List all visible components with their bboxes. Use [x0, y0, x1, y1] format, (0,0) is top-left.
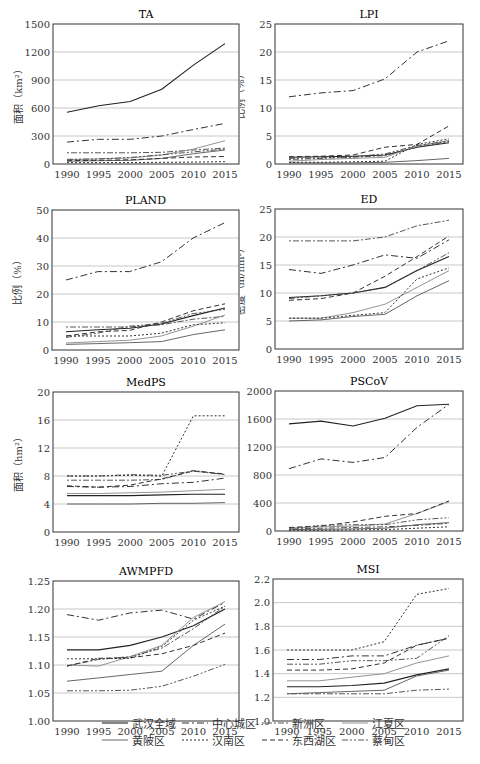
x-tick-label: 2000: [340, 354, 365, 365]
y-tick-label: 1.00: [28, 716, 50, 727]
y-tick-label: 5: [266, 316, 272, 327]
legend-label: 中心城区: [212, 715, 256, 731]
y-tick-label: 40: [36, 233, 49, 244]
y-tick-label: 300: [31, 131, 50, 142]
legend-item: 汉南区: [180, 732, 260, 748]
series-line: [67, 602, 225, 620]
x-tick-label: 2010: [404, 354, 429, 365]
series-line: [66, 223, 225, 280]
line-style-icon: [340, 737, 370, 743]
y-tick-label: 600: [31, 103, 50, 114]
y-tick-label: 1.2: [254, 692, 270, 703]
y-axis-label: 面积（km²）: [13, 64, 24, 124]
chart-title: PSCoV: [350, 376, 389, 388]
y-tick-label: 25: [259, 19, 272, 30]
chart-title: ED: [361, 193, 378, 206]
x-tick-label: 1990: [53, 355, 78, 366]
series-line: [287, 638, 449, 659]
line-chart: MedPS048121620199019952000200520102015面积…: [0, 376, 240, 566]
series-line: [289, 271, 449, 319]
chart-title: LPI: [359, 8, 378, 21]
x-tick-label: 2010: [181, 169, 206, 180]
series-line: [289, 220, 449, 241]
chart-title: PLAND: [125, 194, 166, 207]
y-tick-label: 15: [259, 75, 272, 86]
y-tick-label: 25: [259, 204, 272, 215]
x-tick-label: 2005: [149, 355, 174, 366]
x-tick-label: 2015: [436, 354, 461, 365]
legend-label: 新洲区: [292, 715, 325, 731]
x-tick-label: 2000: [117, 537, 142, 548]
chart-ta: TA03006009001200150019901995200020052010…: [0, 0, 240, 190]
y-tick-label: 1.8: [254, 621, 270, 632]
legend-item: 江夏区: [340, 715, 420, 731]
chart-title: AWMPFD: [118, 565, 173, 578]
x-tick-label: 1990: [54, 169, 79, 180]
x-tick-label: 1995: [86, 169, 111, 180]
series-line: [67, 664, 225, 690]
legend-item: 中心城区: [180, 715, 260, 731]
y-tick-label: 1.10: [28, 660, 50, 671]
series-line: [66, 304, 225, 336]
x-tick-label: 2015: [436, 536, 461, 547]
series-line: [67, 162, 225, 163]
chart-medps: MedPS048121620199019952000200520102015面积…: [0, 376, 240, 566]
y-tick-label: 10: [259, 103, 272, 114]
y-tick-label: 1.6: [254, 645, 270, 656]
y-tick-label: 1500: [25, 19, 50, 30]
line-style-icon: [340, 720, 370, 726]
legend-label: 武汉全域: [132, 715, 176, 731]
y-tick-label: 0: [44, 527, 50, 538]
legend-item: 黄陂区: [100, 732, 180, 748]
x-tick-label: 1990: [54, 726, 79, 737]
legend-item: 武汉全域: [100, 715, 180, 731]
series-line: [67, 44, 225, 113]
series-line: [67, 149, 225, 159]
y-tick-label: 1.15: [28, 632, 50, 643]
x-tick-label: 1990: [276, 536, 301, 547]
x-tick-label: 2015: [212, 169, 237, 180]
x-tick-label: 2010: [404, 169, 429, 180]
legend-row: 黄陂区 汉南区 东西湖区 蔡甸区: [100, 731, 420, 748]
x-tick-label: 2010: [404, 536, 429, 547]
x-tick-label: 2000: [117, 169, 142, 180]
series-line: [287, 669, 449, 687]
x-tick-label: 2005: [149, 537, 174, 548]
series-line: [67, 123, 225, 142]
y-tick-label: 0: [44, 159, 50, 170]
x-tick-label: 1995: [86, 537, 111, 548]
y-tick-label: 0: [266, 344, 272, 355]
x-tick-label: 1995: [308, 536, 333, 547]
y-tick-label: 20: [259, 47, 272, 58]
y-tick-label: 0: [266, 159, 272, 170]
x-tick-label: 2015: [212, 355, 237, 366]
x-tick-label: 2015: [436, 169, 461, 180]
y-axis-label: 比例（%）: [240, 69, 246, 119]
y-axis-label: 密度（m/hm²）: [240, 243, 246, 316]
series-line: [66, 315, 225, 343]
series-line: [289, 281, 449, 321]
x-tick-label: 2015: [436, 726, 461, 737]
y-tick-label: 1200: [25, 47, 50, 58]
series-line: [287, 589, 449, 651]
x-tick-label: 2005: [372, 354, 397, 365]
series-line: [289, 404, 449, 426]
y-tick-label: 50: [36, 205, 49, 216]
series-line: [289, 257, 449, 298]
y-tick-label: 20: [36, 289, 49, 300]
x-tick-label: 1990: [54, 537, 79, 548]
legend-label: 江夏区: [372, 715, 405, 731]
y-tick-label: 2.2: [254, 574, 270, 585]
line-chart: LPI0510152025199019952000200520102015比例（…: [240, 0, 480, 190]
y-tick-label: 4: [44, 499, 50, 510]
chart-title: MedPS: [126, 376, 166, 389]
legend-item: 新洲区: [260, 715, 340, 731]
series-line: [289, 126, 449, 157]
line-style-icon: [260, 720, 290, 726]
series-line: [287, 656, 449, 681]
y-tick-label: 800: [253, 470, 272, 481]
y-tick-label: 30: [36, 261, 49, 272]
series-line: [67, 148, 225, 153]
y-tick-label: 0: [43, 345, 49, 356]
series-line: [289, 240, 449, 274]
